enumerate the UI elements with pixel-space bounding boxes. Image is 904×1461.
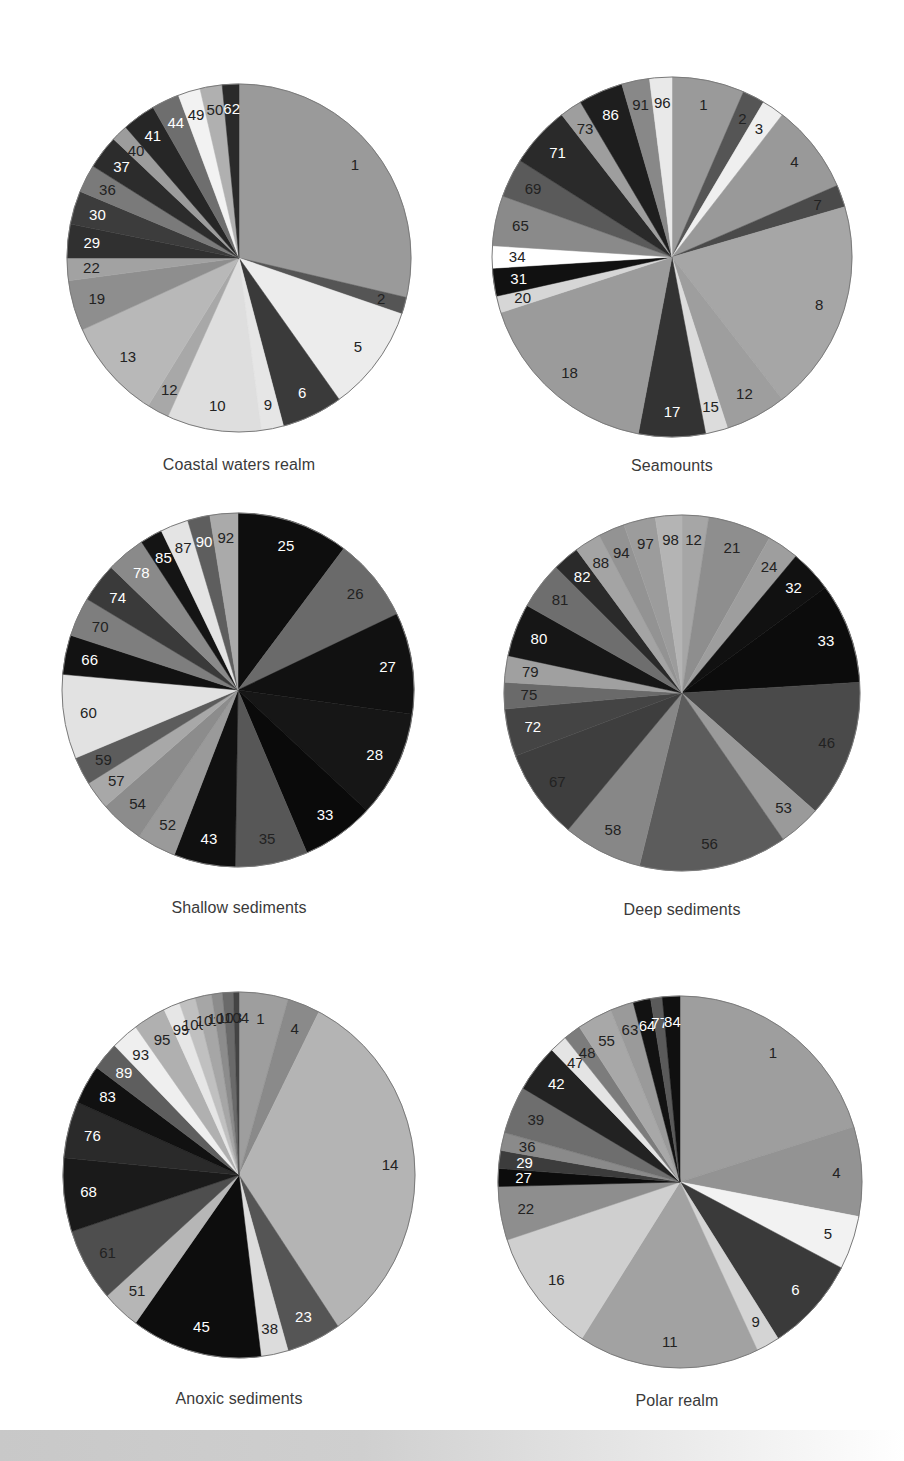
pie-slice-label: 28 xyxy=(366,746,383,763)
pie-slice-label: 22 xyxy=(517,1200,534,1217)
pie-slice-label: 29 xyxy=(83,234,100,251)
pie-anoxic-sediments: 1414233845516168768389939599100101102103… xyxy=(63,992,415,1358)
pie-slice-label: 76 xyxy=(84,1127,101,1144)
pie-slice-label: 6 xyxy=(298,384,306,401)
pie-slice-label: 1 xyxy=(769,1044,777,1061)
pie-slice-label: 72 xyxy=(524,718,541,735)
pie-slice-label: 12 xyxy=(685,531,702,548)
pie-slice-label: 73 xyxy=(577,120,594,137)
pie-slice-label: 88 xyxy=(592,554,609,571)
pie-slice-label: 46 xyxy=(818,734,835,751)
pie-slice-label: 56 xyxy=(701,835,718,852)
pie-slice-label: 29 xyxy=(516,1154,533,1171)
pie-slice-label: 78 xyxy=(133,564,150,581)
pie-slice-label: 89 xyxy=(116,1064,133,1081)
pie-slice-label: 4 xyxy=(832,1164,840,1181)
pie-title-deep-sediments: Deep sediments xyxy=(532,901,832,919)
pie-slice-label: 85 xyxy=(155,549,172,566)
pie-slice-label: 65 xyxy=(512,217,529,234)
pie-slice-label: 82 xyxy=(574,568,591,585)
pie-slice-label: 13 xyxy=(119,348,136,365)
pie-slice-label: 69 xyxy=(525,180,542,197)
pie-slice-label: 95 xyxy=(154,1031,171,1048)
pie-title-polar-realm: Polar realm xyxy=(527,1392,827,1410)
pie-slice-label: 49 xyxy=(188,106,205,123)
pie-slice-label: 38 xyxy=(261,1320,278,1337)
pie-slice-label: 71 xyxy=(549,144,566,161)
pie-slice-label: 15 xyxy=(702,398,719,415)
pie-slice-label: 59 xyxy=(95,751,112,768)
pie-slice-label: 53 xyxy=(775,799,792,816)
pie-slice-label: 60 xyxy=(80,704,97,721)
pie-slice-label: 2 xyxy=(377,290,385,307)
pie-slice-label: 84 xyxy=(664,1013,681,1030)
pie-slice-label: 55 xyxy=(598,1032,615,1049)
pie-title-coastal-waters-realm: Coastal waters realm xyxy=(89,456,389,474)
pie-slice-label: 70 xyxy=(92,618,109,635)
pie-slice-label: 86 xyxy=(602,106,619,123)
pie-slice-label: 68 xyxy=(80,1183,97,1200)
pie-charts-canvas: 1256910121319222930363740414449506212347… xyxy=(0,0,904,1461)
pie-title-shallow-sediments: Shallow sediments xyxy=(89,899,389,917)
pie-slice-label: 27 xyxy=(515,1169,532,1186)
pie-slice-label: 6 xyxy=(791,1281,799,1298)
pie-slice-label: 12 xyxy=(736,385,753,402)
pie-slice-label: 90 xyxy=(196,533,213,550)
pie-slice-label: 22 xyxy=(83,259,100,276)
pie-slice-label: 16 xyxy=(548,1271,565,1288)
pie-slice-label: 104 xyxy=(224,1009,249,1026)
pie-slice-label: 31 xyxy=(510,270,527,287)
pie-slice-label: 5 xyxy=(354,338,362,355)
pie-slice-label: 35 xyxy=(259,830,276,847)
pie-slice-label: 33 xyxy=(818,632,835,649)
pie-slice-label: 94 xyxy=(613,544,630,561)
pie-slice-label: 67 xyxy=(549,773,566,790)
pie-slice-label: 51 xyxy=(129,1282,146,1299)
pie-polar-realm: 14569111622272936394247485563647784 xyxy=(498,996,862,1368)
pie-slice-label: 8 xyxy=(815,296,823,313)
pie-slice-label: 87 xyxy=(175,539,192,556)
pie-slice-label: 97 xyxy=(637,535,654,552)
pie-slice-label: 33 xyxy=(317,806,334,823)
pie-slice-label: 74 xyxy=(109,589,126,606)
pie-slice-label: 18 xyxy=(561,364,578,381)
pie-slice-label: 39 xyxy=(527,1111,544,1128)
pie-chart-figure: 1256910121319222930363740414449506212347… xyxy=(0,0,904,1461)
pie-slice-label: 9 xyxy=(752,1313,760,1330)
pie-slice-label: 32 xyxy=(785,579,802,596)
pie-slice-label: 4 xyxy=(291,1020,299,1037)
pie-slice-label: 10 xyxy=(209,397,226,414)
pie-slice-label: 61 xyxy=(99,1244,116,1261)
pie-slice-label: 57 xyxy=(108,772,125,789)
pie-slice-label: 4 xyxy=(790,153,798,170)
pie-slice-label: 1 xyxy=(351,156,359,173)
pie-slice-label: 43 xyxy=(201,830,218,847)
pie-slice-label: 44 xyxy=(167,114,184,131)
pie-slice-label: 3 xyxy=(755,120,763,137)
pie-slice-label: 42 xyxy=(548,1075,565,1092)
pie-slice-label: 62 xyxy=(223,100,240,117)
pie-slice-label: 66 xyxy=(81,651,98,668)
pie-title-anoxic-sediments: Anoxic sediments xyxy=(89,1390,389,1408)
pie-slice-label: 17 xyxy=(664,403,681,420)
pie-slice-label: 21 xyxy=(724,539,741,556)
pie-seamounts: 1234781215171820313465697173869196 xyxy=(492,77,852,437)
pie-slice-label: 80 xyxy=(531,630,548,647)
pie-slice-label: 63 xyxy=(622,1021,639,1038)
bottom-gray-band xyxy=(0,1430,904,1461)
pie-slice-label: 83 xyxy=(99,1088,116,1105)
pie-slice-label: 37 xyxy=(113,158,130,175)
pie-slice-label: 52 xyxy=(159,816,176,833)
pie-slice-label: 1 xyxy=(699,96,707,113)
pie-slice-label: 11 xyxy=(662,1333,678,1350)
pie-slice-label: 41 xyxy=(144,127,161,144)
pie-shallow-sediments: 2526272833354352545759606670747885879092 xyxy=(62,513,414,867)
pie-slice-label: 58 xyxy=(605,821,622,838)
pie-slice-label: 19 xyxy=(88,290,105,307)
pie-slice-label: 36 xyxy=(99,181,116,198)
pie-slice-label: 24 xyxy=(761,558,778,575)
pie-slice-label: 2 xyxy=(738,110,746,127)
pie-slice-label: 34 xyxy=(509,248,526,265)
pie-slice-label: 81 xyxy=(552,591,569,608)
pie-slice-label: 26 xyxy=(347,585,364,602)
